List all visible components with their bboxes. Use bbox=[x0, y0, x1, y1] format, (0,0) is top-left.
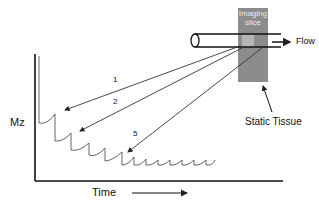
mz-signal-curve bbox=[39, 56, 215, 165]
static-tissue-arrow bbox=[263, 86, 272, 112]
arrow-2-label: 2 bbox=[113, 98, 117, 106]
arrow-5 bbox=[128, 48, 262, 152]
arrow-1 bbox=[65, 46, 240, 110]
flow-label: Flow bbox=[296, 37, 315, 46]
imaging-slice-label-line1: Imaging bbox=[238, 9, 268, 18]
slice-vessel-highlight bbox=[242, 35, 254, 47]
arrow-2 bbox=[80, 48, 242, 131]
diagram-canvas bbox=[0, 0, 319, 202]
arrow-5-label: 5 bbox=[133, 130, 137, 138]
imaging-slice-label: Imaging slice bbox=[238, 9, 268, 27]
inflow-effect-diagram: Imaging slice Flow Static Tissue Mz Time… bbox=[0, 0, 319, 202]
arrow-1-label: 1 bbox=[113, 76, 117, 84]
y-axis-label: Mz bbox=[10, 117, 25, 128]
imaging-slice-label-line2: slice bbox=[238, 18, 268, 27]
static-tissue-label: Static Tissue bbox=[245, 117, 302, 127]
x-axis-label: Time bbox=[92, 187, 116, 198]
